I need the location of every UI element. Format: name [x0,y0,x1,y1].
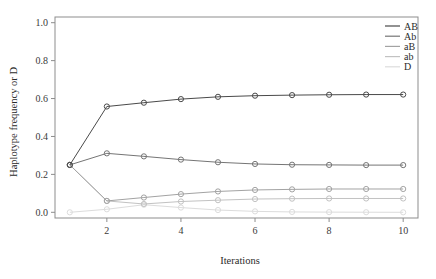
series-line-D [70,205,403,213]
x-tick-label: 10 [398,225,408,236]
legend-label-D: D [404,61,411,72]
series-Ab [67,151,406,168]
y-tick-label: 1.0 [36,17,49,28]
series-line-Ab [70,153,403,165]
y-tick-label: 0.6 [36,93,49,104]
x-tick-label: 2 [104,225,109,236]
legend: ABAbaBabD [385,21,418,73]
y-tick-label: 0.0 [36,207,49,218]
data-series [67,92,406,215]
line-chart: 0.00.20.40.60.81.0 246810 ABAbaBabD Hapl… [0,0,436,279]
y-axis-ticks: 0.00.20.40.60.81.0 [36,17,56,218]
series-AB [67,92,406,168]
y-tick-label: 0.2 [36,169,49,180]
x-axis-title: Iterations [220,255,260,266]
x-tick-label: 4 [178,225,183,236]
series-line-aB [70,165,403,201]
series-line-ab [70,165,403,204]
series-aB [67,162,406,203]
y-tick-label: 0.8 [36,55,49,66]
x-tick-label: 8 [327,225,332,236]
y-axis-title: Haplotype frequency or D [8,67,19,177]
x-tick-label: 6 [253,225,258,236]
y-tick-label: 0.4 [36,131,49,142]
x-axis-ticks: 246810 [104,218,408,236]
chart-figure: 0.00.20.40.60.81.0 246810 ABAbaBabD Hapl… [0,0,436,279]
series-D [67,202,406,215]
